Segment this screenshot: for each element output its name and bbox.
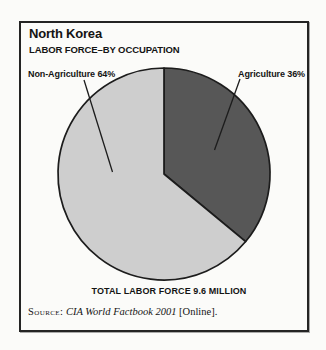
source-line: Source: CIA World Factbook 2001 [Online]… <box>28 306 217 317</box>
total-labor-force-caption: TOTAL LABOR FORCE 9.6 MILLION <box>92 286 247 296</box>
label-non-agriculture: Non-Agriculture 64% <box>28 69 115 79</box>
label-agriculture: Agriculture 36% <box>238 69 305 79</box>
pie-svg <box>0 0 326 350</box>
source-suffix: [Online]. <box>176 306 217 317</box>
page-background: { "card": { "title": "North Korea", "sub… <box>0 0 326 350</box>
source-work-title: CIA World Factbook 2001 <box>63 306 176 317</box>
source-prefix: Source: <box>28 306 63 317</box>
